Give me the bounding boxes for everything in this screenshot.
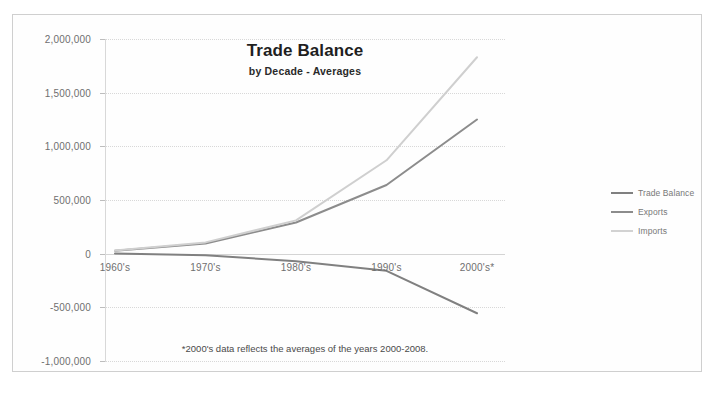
- series-line: [115, 253, 477, 313]
- y-axis-tick-label: -500,000: [50, 302, 91, 313]
- legend-label: Exports: [638, 207, 668, 217]
- legend-item[interactable]: Trade Balance: [611, 183, 715, 202]
- legend-label: Imports: [638, 226, 667, 236]
- y-axis-tick-label: 0: [85, 248, 91, 259]
- gridline: [105, 361, 505, 362]
- y-axis-tick-label: 1,000,000: [45, 141, 91, 152]
- legend-swatch-icon: [611, 230, 633, 232]
- series-line: [115, 120, 477, 251]
- legend-item[interactable]: Imports: [611, 221, 715, 240]
- y-axis-tick-label: 2,000,000: [45, 34, 91, 45]
- chart-legend: Trade BalanceExportsImports: [611, 183, 715, 240]
- chart-frame: Trade Balance by Decade - Averages 2,000…: [12, 14, 702, 372]
- legend-swatch-icon: [611, 211, 633, 213]
- y-axis-labels: 2,000,0001,500,0001,000,000500,0000-500,…: [13, 39, 99, 361]
- y-axis-tick-label: 500,000: [53, 195, 91, 206]
- legend-item[interactable]: Exports: [611, 202, 715, 221]
- legend-label: Trade Balance: [638, 188, 694, 198]
- plot-area: [105, 39, 505, 361]
- y-axis-tick-label: 1,500,000: [45, 87, 91, 98]
- y-axis-tick: [100, 361, 105, 362]
- y-axis-tick-label: -1,000,000: [41, 356, 91, 367]
- series-lines: [105, 39, 505, 361]
- legend-swatch-icon: [611, 192, 633, 194]
- chart-footnote: *2000's data reflects the averages of th…: [105, 343, 505, 354]
- chart-screenshot: Trade Balance by Decade - Averages 2,000…: [0, 0, 718, 395]
